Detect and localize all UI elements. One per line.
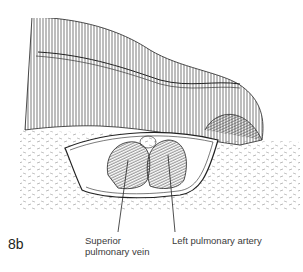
lung-hilum-drawing — [0, 0, 303, 272]
label-superior-pulmonary-vein: Superior pulmonary vein — [85, 235, 149, 257]
label-line: pulmonary vein — [85, 246, 149, 257]
label-left-pulmonary-artery: Left pulmonary artery — [172, 235, 262, 246]
label-line: Superior — [85, 235, 149, 246]
label-line: Left pulmonary artery — [172, 235, 262, 246]
figure-number: 8b — [8, 236, 24, 252]
